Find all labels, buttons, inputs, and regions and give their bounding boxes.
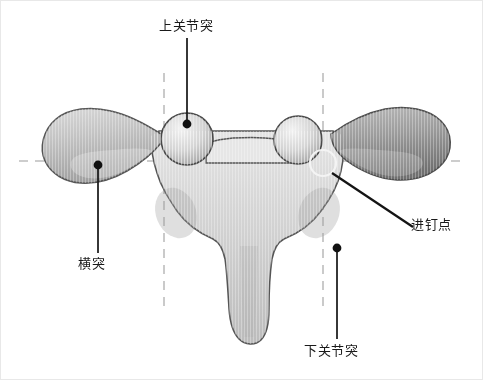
- diagram-canvas: 上关节突 横突 进钉点 下关节突: [0, 0, 483, 380]
- label-transverse-process: 横突: [78, 257, 105, 270]
- label-inferior-articular-process: 下关节突: [304, 344, 358, 357]
- label-screw-entry-point: 进钉点: [411, 218, 452, 231]
- vertebra-illustration: [1, 1, 483, 380]
- vertebra-body-group: [42, 108, 450, 345]
- transverse-marker-dot: [94, 161, 103, 170]
- superior-articular-marker-dot: [183, 120, 192, 129]
- inferior-articular-marker-dot: [333, 244, 342, 253]
- label-superior-articular-process: 上关节突: [159, 19, 213, 32]
- entry-point-leader-line: [332, 173, 413, 227]
- bone-texture-overlay: [42, 108, 450, 345]
